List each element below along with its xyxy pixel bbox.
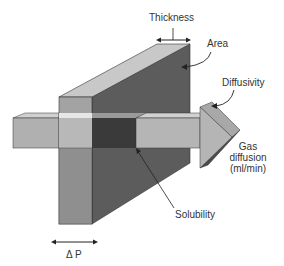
pressure-arrowhead-right [93, 240, 98, 245]
membrane-front-lower [59, 148, 92, 224]
thickness-arrowhead-right [186, 38, 191, 43]
arrow-tail-face [13, 118, 59, 148]
arrow-through-front [59, 118, 92, 148]
arrow-tail-top [13, 113, 59, 118]
gas-diffusion-diagram: Thickness Area Diffusivity Gas diffusion… [0, 0, 284, 266]
diffusivity-label: Diffusivity [222, 77, 265, 88]
gas-diffusion-label-line3: (ml/min) [230, 163, 266, 174]
highlight-band [59, 113, 92, 118]
arrow-shaft-top [136, 113, 205, 118]
pressure-gradient-label: Δ P [66, 249, 82, 260]
arrow-shaft-face [136, 118, 200, 148]
diffusivity-pointer [216, 90, 234, 106]
solubility-label: Solubility [175, 209, 215, 220]
thickness-arrowhead-left [156, 38, 161, 43]
area-label: Area [207, 38, 229, 49]
solubility-zone [92, 118, 136, 148]
gas-diffusion-label-line2: diffusion [229, 152, 266, 163]
pressure-arrowhead-left [51, 240, 56, 245]
gas-diffusion-label-line1: Gas [239, 141, 257, 152]
thickness-label: Thickness [149, 12, 194, 23]
